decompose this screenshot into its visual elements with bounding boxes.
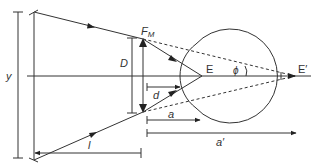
label-a-prime: a′ <box>216 136 225 148</box>
virtual-focus-arrow-icon <box>288 73 296 79</box>
dashed-ray-top <box>143 39 295 76</box>
label-E-prime: E′ <box>298 63 307 75</box>
ray-top-arrow-icon <box>87 23 95 29</box>
label-a: a <box>168 108 174 120</box>
label-F-M: FM <box>141 25 155 39</box>
optics-diagram: y D FM E E′ ϕ d a <box>0 0 320 165</box>
object-height-bar <box>13 12 23 158</box>
label-l: l <box>88 139 91 151</box>
ray-bottom-arrow-icon <box>89 132 97 138</box>
label-E: E <box>206 63 213 75</box>
object <box>29 10 38 162</box>
label-phi: ϕ <box>233 65 239 76</box>
label-D: D <box>120 57 128 69</box>
dashed-ray-bottom <box>143 76 295 112</box>
angle-arc <box>245 66 247 76</box>
label-y: y <box>5 70 13 82</box>
label-d: d <box>153 89 160 101</box>
